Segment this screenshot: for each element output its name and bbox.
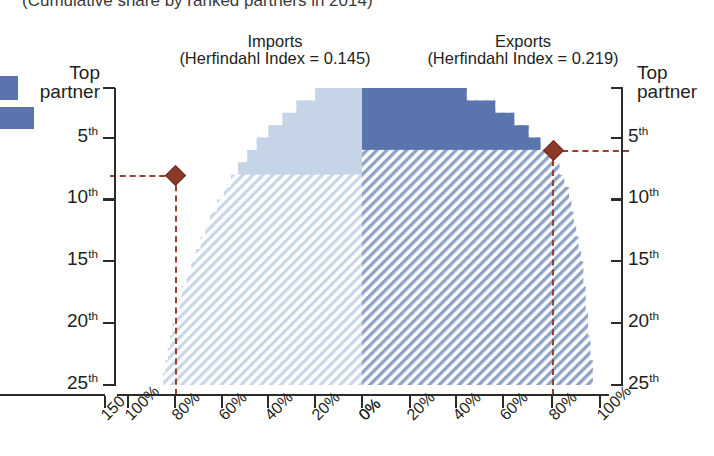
y-axis-tick-label-left-25: 25th <box>0 372 98 393</box>
y-axis-tick-label-right-5: 5th <box>628 125 648 146</box>
bottom-axis-spine-far-left <box>0 394 105 396</box>
chart-canvas: (Cumulative share by ranked partners in … <box>0 0 714 456</box>
right-axis-spine <box>621 88 623 386</box>
y-tick-left-2 <box>103 198 115 200</box>
left-axis-spine <box>114 88 116 386</box>
imports-guide-vertical <box>175 175 177 395</box>
y-axis-tick-label-right-10: 10th <box>628 186 659 207</box>
y-tick-right-2 <box>611 198 623 200</box>
y-axis-tick-label-left-10: 10th <box>0 186 98 207</box>
y-tick-right-4 <box>611 322 623 324</box>
y-top-label-left-line1: Top <box>10 63 100 82</box>
imports-area <box>0 0 714 456</box>
y-axis-top-label-left: Top partner <box>10 63 100 102</box>
y-axis-tick-label-left-15: 15th <box>0 248 98 269</box>
y-top-label-right-line1: Top <box>637 63 714 82</box>
y-tick-right-0 <box>611 87 623 89</box>
y-tick-right-1 <box>611 137 623 139</box>
y-axis-tick-label-right-15: 15th <box>628 248 659 269</box>
y-tick-left-3 <box>103 260 115 262</box>
y-tick-left-0 <box>103 87 115 89</box>
y-axis-tick-label-left-5: 5th <box>0 125 98 146</box>
plot-area <box>0 0 714 456</box>
y-tick-left-5 <box>103 384 115 386</box>
y-axis-tick-label-right-20: 20th <box>628 310 659 331</box>
exports-guide-vertical <box>552 150 554 395</box>
y-tick-left-4 <box>103 322 115 324</box>
y-tick-left-1 <box>103 137 115 139</box>
y-axis-tick-label-left-20: 20th <box>0 310 98 331</box>
y-axis-tick-label-right-25: 25th <box>628 372 659 393</box>
y-top-label-left-line2: partner <box>10 82 100 101</box>
y-tick-right-3 <box>611 260 623 262</box>
y-axis-top-label-right: Top partner <box>637 63 714 102</box>
y-top-label-right-line2: partner <box>637 82 714 101</box>
